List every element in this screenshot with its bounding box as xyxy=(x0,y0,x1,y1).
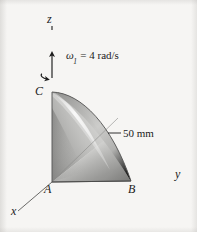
cone-body xyxy=(52,92,131,182)
angular-velocity-label: ω1 = 4 rad/s xyxy=(66,50,119,64)
figure-canvas: z y x C A B ω1 = 4 rad/s 50 mm xyxy=(0,0,197,232)
omega-subscript: 1 xyxy=(73,57,77,66)
point-label-b: B xyxy=(128,183,135,195)
diagram-svg xyxy=(0,0,197,232)
omega-equals: = xyxy=(80,49,86,61)
point-label-a: A xyxy=(44,183,51,195)
dimension-label-50mm: 50 mm xyxy=(123,128,154,139)
omega-units: rad/s xyxy=(98,49,119,61)
dimension-units: mm xyxy=(137,127,154,139)
dimension-value: 50 xyxy=(123,127,134,139)
omega-value: 4 xyxy=(89,49,95,61)
axis-label-x: x xyxy=(11,205,16,217)
axis-label-y: y xyxy=(175,168,180,180)
point-label-c: C xyxy=(35,85,43,97)
axis-label-z: z xyxy=(47,13,52,25)
